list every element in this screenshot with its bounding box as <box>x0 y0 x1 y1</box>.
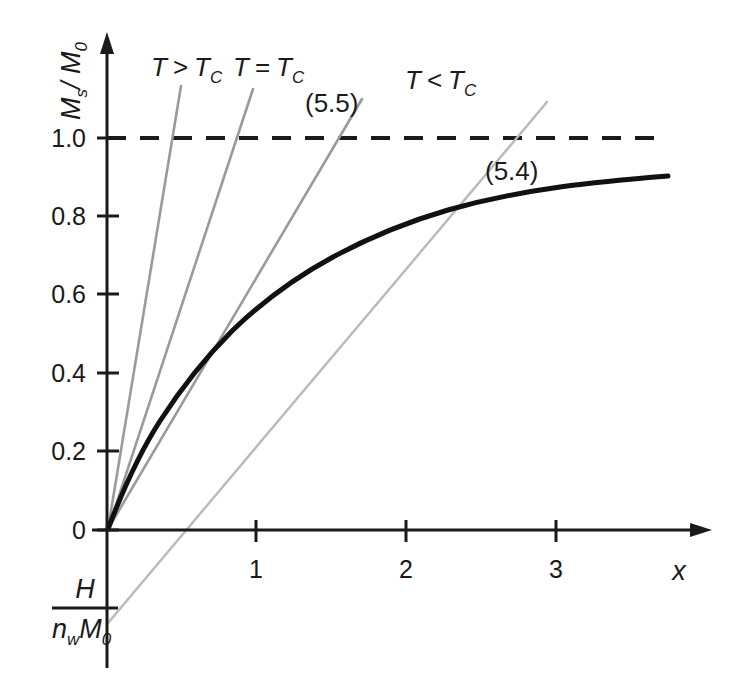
annotation-T-equal-Tc-op: = <box>255 52 270 82</box>
x-secondary-numerator: H <box>75 574 95 604</box>
y-axis-label-m: M <box>56 97 86 120</box>
magnetisation-curve-5-4 <box>108 176 668 529</box>
y-axis-label: Ms/ M0 <box>56 42 91 121</box>
y-tick-label-0: 0 <box>72 516 86 544</box>
x-tick-label-1: 1 <box>249 555 263 583</box>
x-tick-label-3: 3 <box>549 555 563 583</box>
annotation-T-equal-Tc: T=TC <box>233 52 305 87</box>
x-secondary-denominator-m: M <box>79 614 102 644</box>
y-tick-label-0-8: 0.8 <box>51 202 86 230</box>
annotation-eq-5-5: (5.5) <box>305 88 358 118</box>
annotation-T-equal-Tc-sub: C <box>292 68 305 87</box>
y-tick-label-1-0: 1.0 <box>51 124 86 152</box>
annotation-T-greater-Tc: T>TC <box>151 52 223 87</box>
y-axis-label-sub-zero: 0 <box>72 42 91 52</box>
x-tick-label-2: 2 <box>399 555 413 583</box>
y-axis-label-slash-m: / M <box>56 51 86 91</box>
annotation-T-greater-Tc-op: > <box>173 52 188 82</box>
annotation-T-greater-Tc-lhs: T <box>151 52 169 82</box>
y-tick-label-0-6: 0.6 <box>51 280 86 308</box>
annotation-T-greater-Tc-sub: C <box>210 68 223 87</box>
figure-container: 1.0 0.8 0.6 0.4 0.2 0 1 2 3 x Ms/ M0 H n… <box>0 0 738 694</box>
annotation-T-less-Tc-op: < <box>427 65 442 95</box>
y-tick-label-0-2: 0.2 <box>51 437 86 465</box>
annotation-eq-5-4: (5.4) <box>485 156 538 186</box>
chart-svg: 1.0 0.8 0.6 0.4 0.2 0 1 2 3 x Ms/ M0 H n… <box>0 0 738 694</box>
annotation-T-equal-Tc-lhs: T <box>233 52 251 82</box>
x-secondary-denominator-sub-zero: 0 <box>102 630 112 649</box>
x-secondary-denominator-n: n <box>52 614 67 644</box>
tangent-line-T-greater-Tc <box>108 86 181 529</box>
tangent-line-5-5-third <box>108 99 362 529</box>
tangent-line-T-equal-Tc <box>108 89 253 529</box>
y-axis-arrowhead <box>100 32 114 54</box>
y-tick-label-0-4: 0.4 <box>51 359 86 387</box>
x-axis-arrowhead <box>690 523 712 537</box>
svg-text:nwM0: nwM0 <box>52 614 112 649</box>
tangent-line-T-less-Tc <box>108 102 547 623</box>
annotation-T-less-Tc: T<TC <box>405 65 477 100</box>
svg-text:Ms/ M0: Ms/ M0 <box>56 42 91 121</box>
annotation-T-less-Tc-sub: C <box>464 81 477 100</box>
x-axis-label: x <box>670 556 687 586</box>
annotation-T-less-Tc-lhs: T <box>405 65 423 95</box>
